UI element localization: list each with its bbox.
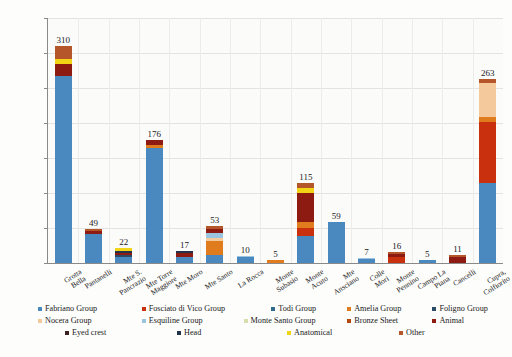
- bar-value-label: 22: [119, 237, 128, 247]
- bar-value-label: 115: [299, 172, 312, 182]
- y-axis-tick-mark: [44, 158, 48, 159]
- bar-segment[interactable]: [176, 257, 193, 263]
- vertical-gridline: [78, 18, 79, 263]
- chart-root: 3503002502001501005003104922176175310511…: [0, 0, 512, 357]
- gridline: [48, 228, 503, 229]
- bar-segment[interactable]: [449, 257, 466, 263]
- bar-segment[interactable]: [85, 234, 102, 263]
- legend-swatch-icon: [142, 307, 146, 311]
- legend-item[interactable]: Animal: [432, 316, 512, 325]
- y-axis-tick-mark: [44, 193, 48, 194]
- vertical-gridline: [473, 18, 474, 263]
- y-axis-tick-mark: [44, 123, 48, 124]
- legend-item-label: Other: [406, 328, 425, 337]
- bar-stack[interactable]: 59: [328, 222, 345, 263]
- legend-swatch-icon: [38, 307, 42, 311]
- bar-segment[interactable]: [419, 260, 436, 263]
- bar-stack[interactable]: 263: [479, 79, 496, 263]
- legend-item[interactable]: Bronze Sheet: [347, 316, 432, 325]
- legend-swatch-icon: [65, 331, 69, 335]
- bar-segment[interactable]: [388, 257, 405, 263]
- legend-item-label: Fosciato di Vico Group: [149, 304, 225, 313]
- bar-stack[interactable]: 115: [297, 183, 314, 264]
- legend-item[interactable]: Nocera Group: [38, 316, 142, 325]
- bar-stack[interactable]: 7: [358, 258, 375, 263]
- bar-stack[interactable]: 10: [237, 256, 254, 263]
- bar-stack[interactable]: 22: [115, 248, 132, 263]
- bar-stack[interactable]: 5: [419, 260, 436, 264]
- legend-item-label: Monte Santo Group: [251, 316, 316, 325]
- legend-item-label: Anatomical: [294, 328, 332, 337]
- bar-stack[interactable]: 49: [85, 229, 102, 263]
- plot-area: 3503002502001501005003104922176175310511…: [47, 18, 503, 264]
- y-axis-tick-mark: [44, 263, 48, 264]
- vertical-gridline: [442, 18, 443, 263]
- bar-segment[interactable]: [146, 148, 163, 264]
- vertical-gridline: [291, 18, 292, 263]
- bar-value-label: 11: [453, 244, 462, 254]
- bar-segment[interactable]: [479, 183, 496, 264]
- legend-swatch-icon: [271, 307, 275, 311]
- bar-value-label: 59: [332, 211, 341, 221]
- legend-item-label: Todi Group: [278, 304, 316, 313]
- bar-segment[interactable]: [55, 64, 72, 76]
- bar-value-label: 176: [147, 129, 161, 139]
- legend-item[interactable]: Foligno Group: [432, 304, 512, 313]
- legend-item[interactable]: Fosciato di Vico Group: [142, 304, 272, 313]
- bar-stack[interactable]: 11: [449, 255, 466, 263]
- bar-value-label: 17: [180, 240, 189, 250]
- legend-item[interactable]: Eyed crest: [65, 328, 177, 337]
- bar-value-label: 5: [273, 249, 278, 259]
- bar-segment[interactable]: [267, 260, 284, 263]
- gridline: [48, 158, 503, 159]
- legend-swatch-icon: [177, 331, 181, 335]
- bar-segment[interactable]: [297, 236, 314, 263]
- legend-item-label: Esquiline Group: [149, 316, 203, 325]
- legend-row: Eyed crestHeadAnatomicalOther: [0, 328, 512, 337]
- bar-segment[interactable]: [115, 257, 132, 263]
- bar-stack[interactable]: 17: [176, 251, 193, 263]
- bar-value-label: 10: [241, 245, 250, 255]
- legend-swatch-icon: [142, 319, 146, 323]
- bar-segment[interactable]: [328, 222, 345, 263]
- bar-stack[interactable]: 53: [206, 226, 223, 263]
- legend-item[interactable]: Amelia Group: [347, 304, 432, 313]
- legend-row: Fabriano GroupFosciato di Vico GroupTodi…: [0, 304, 512, 313]
- bar-segment[interactable]: [206, 241, 223, 255]
- bar-stack[interactable]: 5: [267, 260, 284, 264]
- legend-item[interactable]: Esquiline Group: [142, 316, 244, 325]
- bar-segment[interactable]: [55, 46, 72, 59]
- legend-swatch-icon: [399, 331, 403, 335]
- legend-item-label: Foligno Group: [439, 304, 487, 313]
- bar-stack[interactable]: 176: [146, 140, 163, 263]
- gridline: [48, 193, 503, 194]
- gridline: [48, 88, 503, 89]
- legend-row: Nocera GroupEsquiline GroupMonte Santo G…: [0, 316, 512, 325]
- legend-item[interactable]: Other: [399, 328, 485, 337]
- bar-segment[interactable]: [479, 122, 496, 183]
- bar-stack[interactable]: 310: [55, 46, 72, 263]
- legend-swatch-icon: [432, 307, 436, 311]
- bar-value-label: 49: [89, 218, 98, 228]
- legend-item-label: Fabriano Group: [45, 304, 97, 313]
- bar-value-label: 53: [210, 215, 219, 225]
- legend-item[interactable]: Monte Santo Group: [244, 316, 348, 325]
- bar-stack[interactable]: 16: [388, 252, 405, 263]
- legend-swatch-icon: [244, 319, 248, 323]
- bar-segment[interactable]: [358, 259, 375, 263]
- bar-segment[interactable]: [297, 193, 314, 222]
- bar-segment[interactable]: [206, 255, 223, 263]
- bar-segment[interactable]: [237, 257, 254, 263]
- gridline: [48, 18, 503, 19]
- legend-item[interactable]: Head: [177, 328, 287, 337]
- legend-item[interactable]: Anatomical: [287, 328, 399, 337]
- bar-segment[interactable]: [297, 228, 314, 236]
- y-axis-tick-mark: [44, 18, 48, 19]
- vertical-gridline: [230, 18, 231, 263]
- legend-item[interactable]: Todi Group: [271, 304, 347, 313]
- legend-item[interactable]: Fabriano Group: [38, 304, 142, 313]
- chart-legend: Fabriano GroupFosciato di Vico GroupTodi…: [0, 304, 512, 337]
- y-axis-tick-mark: [44, 53, 48, 54]
- bar-segment[interactable]: [479, 83, 496, 117]
- bar-segment[interactable]: [55, 76, 72, 263]
